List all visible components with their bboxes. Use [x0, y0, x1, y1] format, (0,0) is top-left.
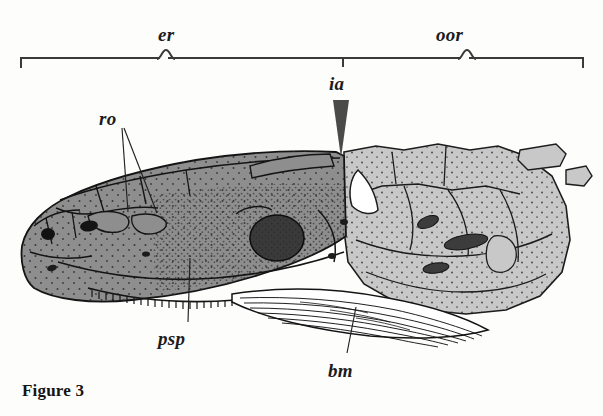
bracket-er-right-arm	[168, 57, 343, 59]
bracket-left-end-tick	[20, 57, 22, 68]
label-psp: psp	[158, 328, 185, 350]
bracket-oor-right-arm	[469, 57, 584, 59]
figure-caption: Figure 3	[22, 381, 84, 401]
bracket-er-peak	[156, 48, 176, 60]
rostral-ossicle	[132, 214, 167, 234]
region-anterior-er	[18, 148, 358, 308]
label-ia: ia	[329, 73, 344, 95]
bracket-right-end-tick	[582, 57, 584, 68]
label-bm: bm	[328, 360, 353, 382]
bracket-center-tick	[342, 57, 344, 67]
label-er: er	[158, 24, 174, 46]
skull-illustration	[0, 0, 603, 416]
ia-wedge-marker	[333, 100, 349, 158]
bracket-oor-left-arm	[343, 57, 461, 59]
label-ro: ro	[99, 108, 117, 130]
bracket-er-left-arm	[20, 57, 160, 59]
figure-page: er oor ro ia psp bm Figure 3	[0, 0, 603, 416]
detached-bone-element	[566, 166, 592, 186]
region-posterior-oor	[340, 140, 592, 320]
label-oor: oor	[436, 24, 463, 46]
naris	[41, 228, 55, 240]
bracket-oor-peak	[457, 48, 477, 60]
detached-bone-element	[518, 144, 566, 170]
